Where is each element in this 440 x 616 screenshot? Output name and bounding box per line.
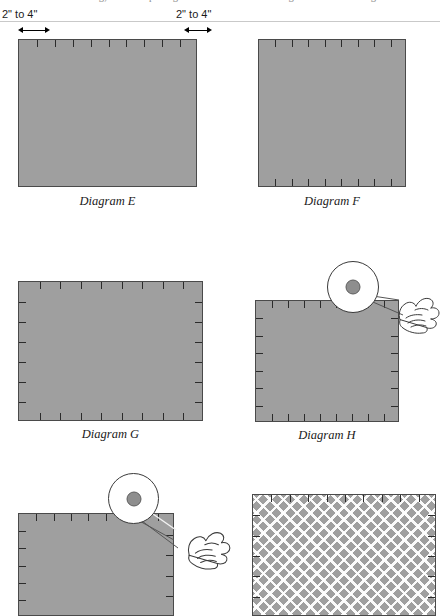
tick-left — [19, 322, 26, 323]
tick-bottom — [384, 414, 385, 421]
tick-top — [101, 282, 102, 289]
tick-right — [391, 353, 398, 354]
tick-top — [81, 282, 82, 289]
tick-top — [109, 40, 110, 47]
dimension-arrow-right — [184, 26, 212, 35]
tick-bottom — [101, 413, 102, 420]
tick-bottom — [163, 413, 164, 420]
tick-bottom — [368, 414, 369, 421]
tick-top — [308, 495, 309, 502]
tick-top — [374, 40, 375, 47]
tick-top — [382, 495, 383, 502]
tick-top — [37, 40, 38, 47]
tick-top — [271, 495, 272, 502]
tick-left — [253, 515, 260, 516]
tick-top — [142, 282, 143, 289]
illustration-page: fastening, and the spacing of the fasten… — [0, 0, 440, 616]
tick-left — [256, 336, 263, 337]
tick-bottom — [320, 414, 321, 421]
tick-bottom — [272, 414, 273, 421]
tick-top — [122, 282, 123, 289]
arrow-shaft — [21, 30, 47, 31]
tick-left — [256, 371, 263, 372]
tick-top — [290, 495, 291, 502]
tick-right — [391, 336, 398, 337]
diagram-e-board — [18, 39, 197, 187]
tick-right — [428, 556, 435, 557]
tick-top — [400, 495, 401, 502]
tick-right — [195, 302, 202, 303]
tick-left — [19, 566, 26, 567]
tick-bottom — [142, 413, 143, 420]
tick-top — [325, 40, 326, 47]
diagram-f-caption: Diagram F — [258, 194, 406, 209]
tick-bottom — [352, 414, 353, 421]
horizontal-rule — [0, 21, 440, 22]
tick-left — [19, 362, 26, 363]
tick-top — [183, 282, 184, 289]
tick-top — [308, 40, 309, 47]
tick-right — [166, 596, 173, 597]
tick-right — [166, 555, 173, 556]
tick-bottom — [60, 413, 61, 420]
tick-bottom — [391, 179, 392, 186]
diagram-f-board — [258, 39, 406, 187]
tick-top — [419, 495, 420, 502]
diagram-i-hand-icon — [185, 528, 233, 572]
tick-bottom — [40, 413, 41, 420]
diagram-j-board — [252, 494, 436, 616]
tick-bottom — [325, 179, 326, 186]
tick-right — [195, 362, 202, 363]
tick-right — [195, 402, 202, 403]
tick-right — [428, 597, 435, 598]
tick-top — [60, 282, 61, 289]
tick-top — [363, 495, 364, 502]
tick-bottom — [81, 413, 82, 420]
tick-left — [19, 583, 26, 584]
tick-bottom — [292, 179, 293, 186]
tick-top — [40, 282, 41, 289]
diagram-h-caption: Diagram H — [255, 428, 399, 443]
arrowhead-right-icon — [207, 27, 212, 33]
tick-left — [253, 576, 260, 577]
tick-top — [358, 40, 359, 47]
tick-top — [55, 40, 56, 47]
tick-right — [166, 576, 173, 577]
tick-top — [73, 40, 74, 47]
tick-bottom — [358, 179, 359, 186]
tick-top — [275, 40, 276, 47]
tick-bottom — [122, 413, 123, 420]
dimension-arrow-left — [18, 26, 50, 35]
tick-bottom — [341, 179, 342, 186]
cut-off-header-text: fastening, and the spacing of the fasten… — [0, 0, 440, 2]
tick-left — [253, 556, 260, 557]
tick-top — [180, 40, 181, 47]
tick-left — [253, 597, 260, 598]
tick-top — [163, 282, 164, 289]
tick-left — [19, 342, 26, 343]
tick-top — [345, 495, 346, 502]
tick-left — [256, 406, 263, 407]
tick-right — [428, 536, 435, 537]
tick-left — [19, 382, 26, 383]
arrow-shaft — [187, 30, 209, 31]
tick-top — [91, 40, 92, 47]
diagram-i-magnifier-circle — [108, 473, 159, 524]
tick-right — [195, 382, 202, 383]
tick-bottom — [308, 179, 309, 186]
tick-top — [391, 40, 392, 47]
tick-right — [391, 388, 398, 389]
tick-right — [428, 515, 435, 516]
fastener-head-dot-icon — [126, 491, 141, 506]
diagram-e-caption: Diagram E — [18, 194, 197, 209]
tick-bottom — [374, 179, 375, 186]
tick-top — [327, 495, 328, 502]
arrowhead-right-icon — [45, 27, 50, 33]
tick-top — [144, 40, 145, 47]
diagram-h-hand-icon — [396, 294, 440, 336]
tick-bottom — [275, 179, 276, 186]
tick-bottom — [304, 414, 305, 421]
fastener-head-dot-icon — [346, 280, 361, 295]
dimension-label-right: 2" to 4" — [176, 8, 211, 20]
tick-right — [195, 322, 202, 323]
